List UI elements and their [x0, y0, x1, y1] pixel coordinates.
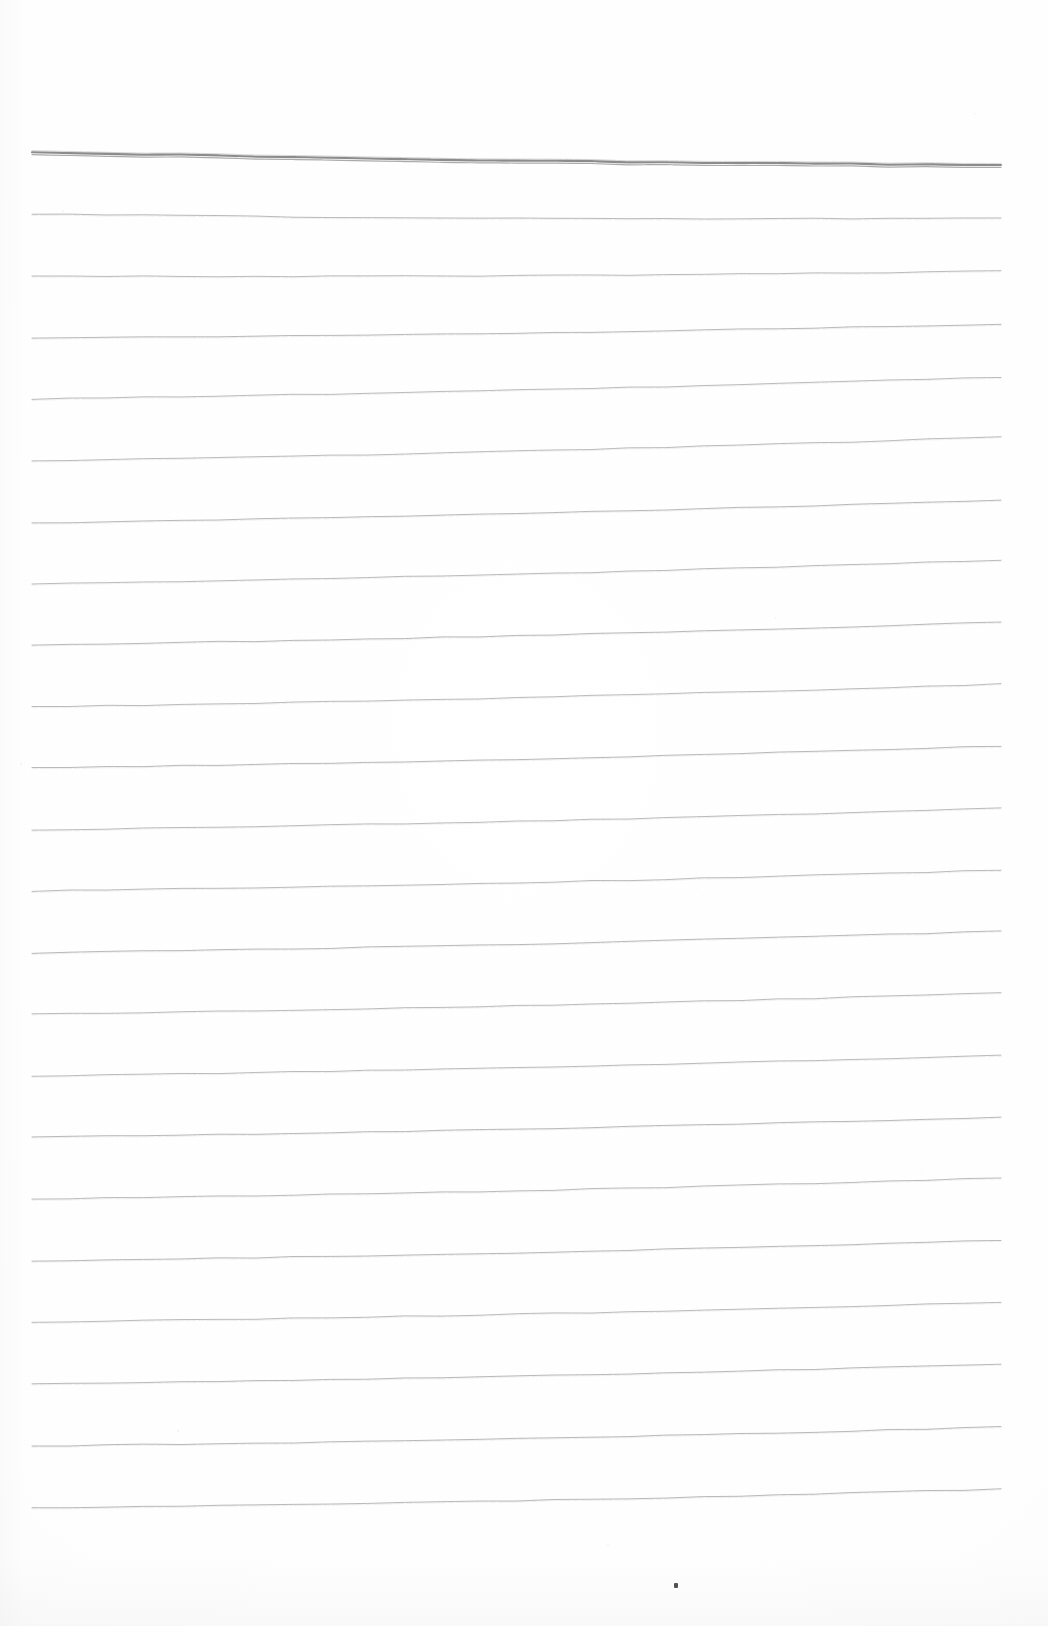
ruled-line-ghost — [32, 1056, 1001, 1077]
ruled-line-ghost — [32, 501, 1001, 524]
ruled-line — [32, 1117, 1001, 1137]
ruled-line-ghost — [32, 1365, 1001, 1385]
bottom-edge-smudge — [0, 1556, 1048, 1626]
ruled-line-ghost — [32, 379, 1001, 401]
ruled-line — [32, 622, 1001, 645]
ruled-line — [32, 214, 1001, 219]
left-edge-smudge — [0, 0, 26, 1626]
ruled-line-ghost — [32, 272, 1001, 278]
ruled-line-ghost — [32, 809, 1001, 831]
ruled-line-header-secondary — [32, 155, 1001, 168]
ruled-line — [32, 1489, 1001, 1508]
ruled-line — [32, 746, 1001, 767]
ruled-line-ghost — [32, 623, 1001, 646]
ruled-line — [32, 684, 1001, 707]
ruled-line-ghost — [32, 685, 1001, 708]
ruled-line-ghost — [32, 994, 1001, 1015]
ruled-line — [32, 1364, 1001, 1384]
ruled-line-ghost — [32, 1303, 1001, 1323]
ruled-line — [32, 993, 1001, 1014]
ruled-line-ghost — [32, 325, 1001, 339]
ruled-lines-svg — [0, 0, 1048, 1626]
ruled-line — [32, 324, 1001, 338]
ruled-line-ghost — [32, 438, 1001, 462]
ruled-line — [32, 271, 1001, 277]
ruled-line-ghost — [32, 1179, 1001, 1200]
scan-noise-overlay — [0, 0, 1048, 1626]
ruled-line — [32, 1055, 1001, 1076]
ruled-line — [32, 152, 1001, 165]
ruled-line-ghost — [32, 1118, 1001, 1138]
ruled-line-ghost — [32, 215, 1001, 220]
ruled-line — [32, 500, 1001, 523]
ruled-line — [32, 931, 1001, 953]
paper-background — [0, 0, 1048, 1626]
ruled-line — [32, 377, 1001, 399]
ruled-line-ghost — [32, 561, 1001, 585]
ruled-line — [32, 1178, 1001, 1199]
ruled-line — [32, 437, 1001, 461]
ruled-line — [32, 1240, 1001, 1261]
ruled-line — [32, 1302, 1001, 1322]
ruled-line — [32, 560, 1001, 584]
ruled-line — [32, 1427, 1001, 1446]
ruled-line-ghost — [32, 932, 1001, 954]
dust-speck — [674, 1583, 678, 1588]
ruled-line-ghost — [32, 871, 1001, 892]
scanned-page — [0, 0, 1048, 1626]
ruled-line-ghost — [32, 747, 1001, 768]
ruled-line — [32, 808, 1001, 830]
ruled-lines-layer — [0, 0, 1048, 1626]
ruled-line-header-ghost — [32, 151, 1001, 164]
ruled-line — [32, 870, 1001, 891]
ruled-line-ghost — [32, 1242, 1001, 1263]
paper-speckle-overlay — [0, 0, 1048, 1626]
ruled-line-ghost — [32, 1428, 1001, 1447]
ruled-line-ghost — [32, 1490, 1001, 1509]
